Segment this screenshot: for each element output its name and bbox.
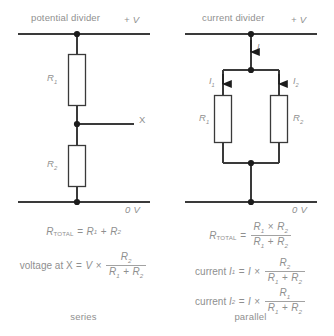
- fraction-voltage-divider: R2 R1+R2: [106, 252, 146, 279]
- series-caption: series: [0, 311, 167, 322]
- resistor-r2-body: [69, 146, 86, 187]
- fraction-current-i1: R2 R1+R2: [265, 258, 305, 285]
- parallel-circuit-schematic: [167, 0, 334, 336]
- junction-dot-ground: [74, 199, 80, 205]
- junction-dot-output: [74, 121, 80, 127]
- equation-current-i1: current I1 = I × R2 R1+R2: [167, 258, 334, 285]
- current-divider-panel: current divider + V 0 V I I1 I2 R1 R2: [167, 0, 334, 336]
- equation-series-total: RTOTAL = R1 + R2: [0, 226, 167, 237]
- junction-dot-supply: [248, 31, 254, 37]
- resistor-r1-body: [69, 55, 86, 106]
- equation-parallel-total: RTOTAL = R1×R2 R1+R2: [167, 222, 334, 249]
- series-circuit-schematic: [0, 0, 167, 336]
- equation-voltage-at-x: voltage at X = V × R2 R1+R2: [0, 252, 167, 279]
- parallel-caption: parallel: [167, 311, 334, 322]
- resistor-r1-body: [215, 96, 232, 143]
- junction-dot-merge: [248, 160, 254, 166]
- fraction-parallel-total: R1×R2 R1+R2: [251, 222, 291, 249]
- potential-divider-panel: potential divider + V 0 V X R1 R2 RTO: [0, 0, 167, 336]
- junction-dot-supply: [74, 31, 80, 37]
- junction-dot-ground: [248, 199, 254, 205]
- junction-dot-split: [248, 67, 254, 73]
- resistor-r2-body: [271, 96, 288, 143]
